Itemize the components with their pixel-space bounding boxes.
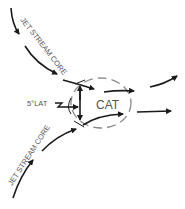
cat-upper-exit-arrow xyxy=(104,91,134,92)
cat-lower-flow-arrow xyxy=(83,114,123,125)
cat-label: CAT xyxy=(96,98,120,112)
upper-jet-arrow-1 xyxy=(11,8,19,34)
lower-jet-stream-label: JET STREAM CORE xyxy=(6,123,52,187)
cat-jet-stream-diagram: JET STREAM CORE CAT 5°LAT JET STREAM COR… xyxy=(0,0,185,209)
lower-cross-tick xyxy=(74,121,84,127)
upper-cross-tick xyxy=(75,80,85,84)
lat-pointer-zigzag xyxy=(55,103,66,107)
outflow-upper-arrow xyxy=(150,76,177,87)
upper-entry-arrow xyxy=(63,80,94,89)
lat-distance-label: 5°LAT xyxy=(27,99,48,108)
outflow-lower-arrow xyxy=(137,111,171,112)
